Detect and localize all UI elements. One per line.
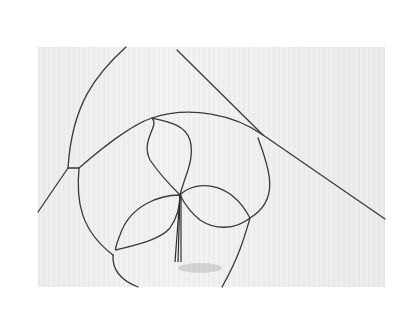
clover-stem bbox=[175, 195, 181, 262]
diagonal-wire bbox=[177, 50, 385, 219]
clover-leaf-top bbox=[147, 118, 191, 195]
big-loop-top bbox=[79, 112, 263, 168]
wire-sculpture bbox=[0, 0, 411, 310]
big-loop-bottom-left bbox=[113, 255, 138, 287]
outer-left-lower-wire bbox=[38, 168, 68, 212]
clover-leaf-left bbox=[116, 195, 180, 250]
stem-shadow bbox=[178, 263, 222, 273]
outer-left-wire bbox=[68, 47, 126, 168]
big-loop-right bbox=[222, 138, 270, 287]
big-loop-left bbox=[68, 168, 113, 255]
clover-leaf-right bbox=[180, 186, 250, 228]
